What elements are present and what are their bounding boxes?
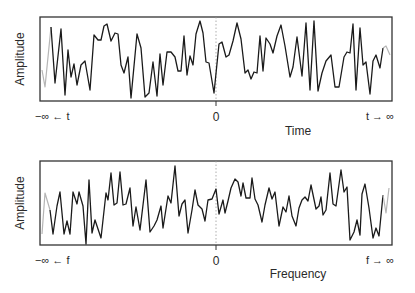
- spectrum-faded-start: [42, 193, 50, 234]
- zero-tick-label-bottom: 0: [213, 254, 220, 268]
- signal-faded-start: [42, 27, 51, 87]
- left-tick-label-top: −∞ ← t: [35, 110, 69, 122]
- x-axis-label-time: Time: [285, 124, 312, 138]
- right-tick-label-top: t → ∞: [366, 110, 394, 122]
- y-axis-label-top: Amplitude: [13, 32, 27, 86]
- signal-faded-end: [383, 46, 390, 55]
- spectrum-faded-end: [383, 188, 389, 213]
- x-axis-label-frequency: Frequency: [270, 267, 327, 281]
- figure: Amplitude −∞ ← t 0 t → ∞ Time Amplitude …: [0, 0, 415, 293]
- frequency-spectrum-line: [50, 166, 383, 244]
- time-domain-panel: Amplitude −∞ ← t 0 t → ∞ Time: [13, 17, 394, 138]
- time-signal-line: [51, 21, 383, 98]
- zero-tick-label-top: 0: [213, 110, 220, 124]
- y-axis-label-bottom: Amplitude: [13, 176, 27, 230]
- frequency-domain-panel: Amplitude −∞ ← f 0 f → ∞ Frequency: [13, 161, 394, 281]
- right-tick-label-bottom: f → ∞: [366, 254, 394, 266]
- left-tick-label-bottom: −∞ ← f: [35, 254, 70, 266]
